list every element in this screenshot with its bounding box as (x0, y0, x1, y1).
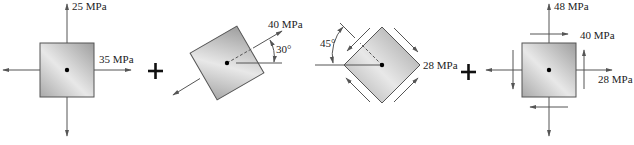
plus-operator-2 (461, 64, 476, 80)
plus-operator-1 (148, 63, 163, 79)
label-horizontal-stress: 28 MPa (598, 73, 633, 85)
element-1: 25 MPa 35 MPa (3, 0, 134, 136)
center-point (380, 63, 384, 67)
element-result: 48 MPa 40 MPa 28 MPa (486, 0, 633, 136)
center-point (225, 61, 229, 65)
element-3: 45° 28 MPa (315, 23, 458, 103)
label-vertical-stress: 48 MPa (554, 0, 589, 12)
label-shear-stress: 28 MPa (423, 59, 458, 71)
label-vertical-stress: 25 MPa (72, 0, 107, 12)
label-angle: 30° (276, 43, 291, 55)
label-horizontal-stress: 35 MPa (99, 53, 134, 65)
normal-line (340, 23, 355, 38)
center-point (547, 68, 551, 72)
angle-arc (270, 40, 274, 62)
label-angle: 45° (320, 37, 335, 49)
arrow-tension-left (173, 79, 200, 96)
stress-superposition-diagram: 25 MPa 35 MPa 40 MPa 30° 45° 28 MPa (0, 0, 634, 145)
element-2: 40 MPa 30° (173, 18, 303, 100)
center-point (65, 68, 69, 72)
label-shear-stress: 40 MPa (580, 29, 615, 41)
label-stress: 40 MPa (268, 18, 303, 30)
